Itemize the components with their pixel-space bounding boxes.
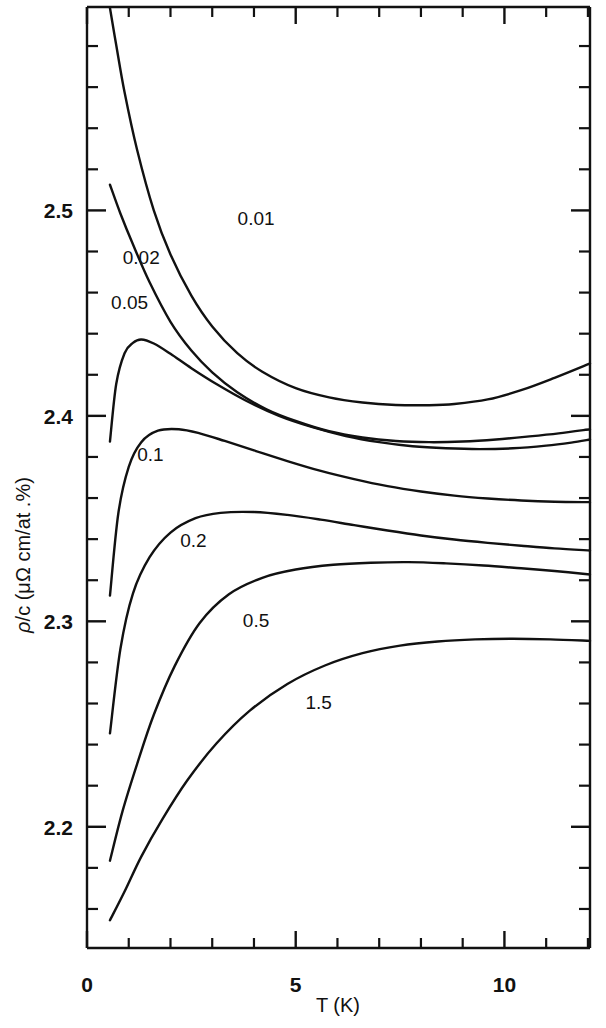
curve-label-1.5: 1.5 [305, 692, 331, 713]
curve-label-0.02: 0.02 [123, 247, 160, 268]
x-tick-label-1: 5 [290, 973, 302, 996]
y-title-slash-c: /c ( [12, 593, 34, 621]
data-curves [110, 8, 590, 920]
x-axis-title: T (K) [316, 994, 360, 1016]
curve-0.1 [110, 429, 590, 596]
curve-label-0.5: 0.5 [243, 610, 269, 631]
y-title-rho: ρ [12, 621, 34, 633]
y-title-mu-omega: μΩ [12, 567, 34, 594]
tick-labels: 05102.22.32.42.5 [44, 199, 516, 996]
y-tick-label-3: 2.5 [44, 199, 74, 222]
curve-0.02 [110, 185, 590, 442]
x-tick-label-2: 10 [493, 973, 516, 996]
y-title-units: cm/at .%) [12, 477, 34, 567]
tick-marks [87, 7, 590, 948]
y-tick-label-2: 2.4 [44, 405, 74, 428]
chart-canvas: 05102.22.32.42.5 0.010.020.050.10.20.51.… [0, 0, 606, 1028]
curve-label-0.2: 0.2 [180, 530, 206, 551]
y-axis-title: ρ/c (μΩ cm/at .%) [12, 477, 34, 634]
y-tick-label-1: 2.3 [44, 610, 73, 633]
plot-frame [87, 7, 590, 948]
curve-0.5 [110, 562, 590, 861]
svg-text:ρ/c (μΩ cm/at .%): ρ/c (μΩ cm/at .%) [12, 477, 34, 634]
curve-0.05 [110, 339, 590, 449]
curve-1.5 [110, 639, 590, 920]
curve-label-0.01: 0.01 [238, 208, 275, 229]
curve-labels: 0.010.020.050.10.20.51.5 [111, 208, 332, 714]
y-tick-label-0: 2.2 [44, 816, 73, 839]
figure-container: 05102.22.32.42.5 0.010.020.050.10.20.51.… [0, 0, 606, 1028]
curve-label-0.1: 0.1 [137, 444, 163, 465]
curve-0.01 [110, 8, 590, 405]
x-tick-label-0: 0 [81, 973, 93, 996]
curve-label-0.05: 0.05 [111, 292, 148, 313]
